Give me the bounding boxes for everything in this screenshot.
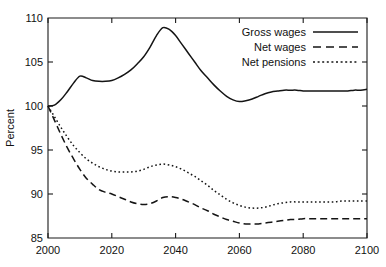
y-tick-label: 100 [25, 100, 43, 112]
x-tick-label: 2000 [36, 244, 60, 256]
y-axis-title: Percent [4, 109, 16, 147]
y-tick-label: 85 [31, 232, 43, 244]
x-tick-label: 2080 [291, 244, 315, 256]
x-axis-tick-labels: 200020202040206020802100 [36, 244, 379, 256]
legend-label-net-pensions: Net pensions [242, 56, 307, 68]
y-tick-label: 105 [25, 56, 43, 68]
x-tick-label: 2100 [355, 244, 379, 256]
y-tick-label: 90 [31, 188, 43, 200]
y-axis-tick-labels: 859095100105110 [25, 12, 43, 244]
legend-label-gross-wages: Gross wages [242, 26, 307, 38]
line-chart-svg: 200020202040206020802100 859095100105110… [0, 0, 386, 267]
y-tick-label: 95 [31, 144, 43, 156]
plot-background [48, 18, 367, 238]
legend-label-net-wages: Net wages [254, 41, 306, 53]
plot-area: 200020202040206020802100 859095100105110… [4, 12, 379, 256]
x-tick-label: 2060 [227, 244, 251, 256]
x-tick-label: 2020 [100, 244, 124, 256]
x-tick-label: 2040 [163, 244, 187, 256]
chart-figure: 200020202040206020802100 859095100105110… [0, 0, 386, 267]
y-tick-label: 110 [25, 12, 43, 24]
